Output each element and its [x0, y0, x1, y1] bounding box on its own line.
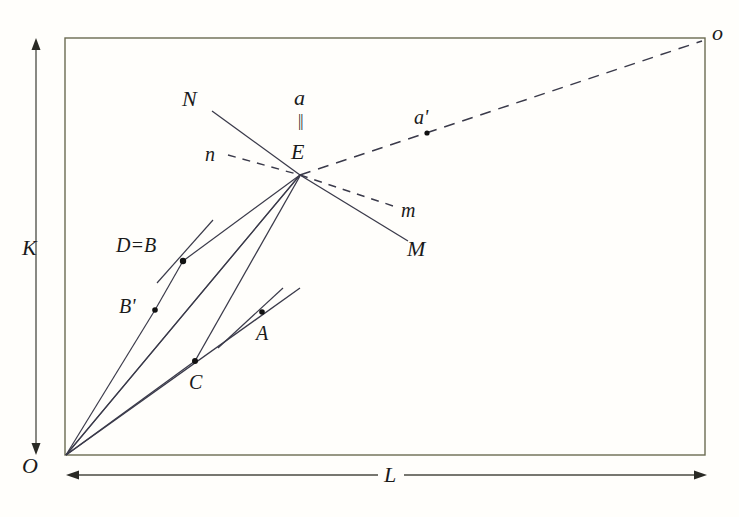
point-markers — [152, 130, 429, 364]
rays-from-origin — [66, 175, 300, 455]
label-n: n — [205, 144, 215, 164]
point-marker-B-prime — [152, 307, 158, 313]
label-B-prime: B' — [119, 296, 136, 316]
label-E: E — [291, 141, 304, 163]
tangent-segment-at-DB — [157, 220, 213, 283]
dashed-line-nm — [228, 155, 399, 208]
point-marker-C — [192, 358, 198, 364]
diagram-canvas: o K L O N n a || E a' m M D=B B' A C — [0, 0, 739, 517]
label-C: C — [189, 372, 202, 392]
label-origin-O: O — [22, 455, 38, 477]
point-marker-D-equals-B — [180, 258, 186, 264]
label-a: a — [294, 87, 305, 109]
label-corner-o: o — [712, 22, 723, 44]
label-N: N — [182, 88, 197, 110]
geometry-figure — [0, 0, 739, 517]
label-axis-L: L — [384, 464, 396, 486]
label-parallel-mark: || — [298, 113, 302, 129]
label-m: m — [401, 200, 415, 220]
label-axis-K: K — [22, 237, 37, 259]
dashed-diagonal-to-corner — [300, 41, 702, 175]
tangent-segment-at-A — [218, 288, 283, 348]
label-A: A — [256, 323, 268, 343]
point-marker-a-prime — [424, 130, 429, 135]
label-M: M — [407, 238, 425, 260]
solid-line-NM — [212, 111, 408, 241]
frame-rectangle — [65, 38, 705, 455]
label-a-prime: a' — [414, 107, 428, 127]
point-marker-A — [259, 309, 265, 315]
label-D-equals-B: D=B — [116, 235, 156, 255]
